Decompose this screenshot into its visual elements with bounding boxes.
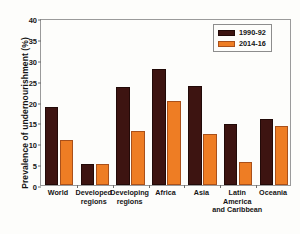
bar[interactable] bbox=[203, 134, 217, 185]
y-tick-mark bbox=[38, 187, 41, 188]
legend-item[interactable]: 1990-92 bbox=[218, 28, 266, 37]
x-tick-label: World bbox=[48, 189, 68, 198]
bar[interactable] bbox=[260, 119, 274, 185]
legend-item[interactable]: 2014-16 bbox=[218, 39, 266, 48]
y-tick-mark bbox=[38, 124, 41, 125]
y-tick-mark bbox=[38, 166, 41, 167]
bar-group bbox=[45, 20, 74, 185]
legend-label: 2014-16 bbox=[239, 39, 266, 48]
bar[interactable] bbox=[81, 164, 95, 185]
bar[interactable] bbox=[45, 107, 59, 185]
chart-figure: Prevalence of undernourishment (%) 05101… bbox=[0, 0, 300, 234]
x-tick-label: Asia bbox=[194, 189, 209, 198]
bar[interactable] bbox=[188, 86, 202, 185]
y-tick-mark bbox=[38, 103, 41, 104]
x-tick-mark bbox=[184, 185, 185, 188]
bar-group bbox=[152, 20, 181, 185]
bar[interactable] bbox=[131, 131, 145, 185]
legend-label: 1990-92 bbox=[239, 28, 266, 37]
legend-swatch-icon bbox=[218, 30, 235, 36]
bar[interactable] bbox=[60, 140, 74, 186]
bar[interactable] bbox=[116, 87, 130, 185]
bar-group bbox=[116, 20, 145, 185]
x-tick-label: Oceania bbox=[259, 189, 287, 198]
x-tick-label: Developed regions bbox=[76, 189, 112, 206]
bar[interactable] bbox=[167, 101, 181, 185]
x-tick-mark bbox=[220, 185, 221, 188]
bar[interactable] bbox=[96, 164, 110, 185]
y-tick-mark bbox=[38, 82, 41, 83]
bar[interactable] bbox=[152, 69, 166, 185]
bar[interactable] bbox=[239, 162, 253, 185]
x-tick-label: Latin America and Caribbean bbox=[212, 189, 262, 215]
y-axis-label: Prevalence of undernourishment (%) bbox=[20, 23, 30, 203]
y-tick-mark bbox=[38, 61, 41, 62]
y-tick-mark bbox=[38, 145, 41, 146]
x-tick-mark bbox=[256, 185, 257, 188]
x-tick-label: Developing regions bbox=[110, 189, 149, 206]
x-tick-label: Africa bbox=[155, 189, 175, 198]
bar[interactable] bbox=[275, 126, 289, 185]
chart-legend: 1990-922014-16 bbox=[213, 24, 272, 52]
bar[interactable] bbox=[224, 124, 238, 185]
y-tick-mark bbox=[38, 20, 41, 21]
y-tick-mark bbox=[38, 40, 41, 41]
legend-swatch-icon bbox=[218, 41, 235, 47]
bar-group bbox=[81, 20, 110, 185]
